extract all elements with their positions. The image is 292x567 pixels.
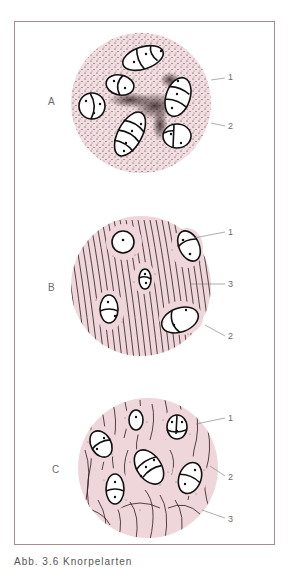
panel-label-c: C bbox=[52, 464, 59, 475]
panel-a: A 1 2 bbox=[0, 30, 292, 200]
callout-c-3: 3 bbox=[228, 514, 233, 524]
fibrocartilage-illustration bbox=[0, 210, 292, 370]
figure-caption: Abb. 3.6 Knorpelarten bbox=[14, 556, 132, 567]
callout-a-2: 2 bbox=[228, 121, 233, 131]
elastic-cartilage-illustration bbox=[0, 390, 292, 550]
panel-c: C 1 2 3 bbox=[0, 390, 292, 560]
callout-b-1: 1 bbox=[228, 227, 233, 237]
panel-label-a: A bbox=[48, 96, 55, 107]
hyaline-cartilage-illustration bbox=[0, 30, 292, 190]
callout-c-2: 2 bbox=[228, 472, 233, 482]
callout-b-2: 2 bbox=[228, 331, 233, 341]
callout-b-3: 3 bbox=[228, 279, 233, 289]
panel-label-b: B bbox=[48, 282, 55, 293]
panel-b: B 1 3 2 bbox=[0, 210, 292, 380]
callout-c-1: 1 bbox=[228, 413, 233, 423]
callout-a-1: 1 bbox=[228, 72, 233, 82]
